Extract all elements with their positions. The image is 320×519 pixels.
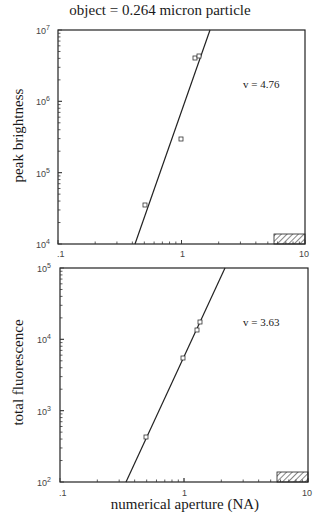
y-tick-label: 102 (37, 476, 51, 488)
x-tick-label: 1 (180, 249, 185, 259)
y-tick-label: 106 (36, 95, 50, 107)
plot-total-fluorescence: 105 104 103 102 .1 1 10 v = 3.63 (37, 262, 312, 498)
data-point (198, 320, 202, 324)
y-tick-label: 103 (37, 405, 51, 417)
y-tick-label: 104 (37, 333, 51, 345)
x-tick-label: .1 (57, 249, 65, 259)
data-point (144, 435, 148, 439)
hatched-region (277, 472, 308, 482)
data-point (179, 137, 183, 141)
plot-frame (60, 268, 308, 482)
fit-line (126, 268, 225, 482)
chart-canvas: 107 106 105 104 .1 1 10 v = 4.76 105 104… (0, 0, 320, 519)
y-tick-label: 104 (36, 238, 50, 250)
axis-ticks (60, 268, 308, 482)
hatched-region (274, 234, 305, 244)
data-point (181, 356, 185, 360)
plot-peak-brightness: 107 106 105 104 .1 1 10 v = 4.76 (36, 24, 309, 259)
data-point (193, 56, 197, 60)
y-tick-label: 107 (36, 24, 50, 36)
data-point (143, 203, 147, 207)
data-point (197, 54, 201, 58)
y-tick-label: 105 (37, 262, 51, 274)
y-axis-label-total-fluorescence: total fluorescence (10, 308, 27, 438)
exponent-annotation: v = 4.76 (243, 78, 280, 90)
fit-line (135, 30, 210, 244)
y-tick-label: 105 (36, 167, 50, 179)
y-axis-label-peak-brightness: peak brightness (10, 81, 27, 191)
exponent-annotation: v = 3.63 (243, 316, 280, 328)
data-point (195, 328, 199, 332)
x-axis-label: numerical aperture (NA) (0, 496, 320, 513)
x-tick-label: 10 (299, 249, 309, 259)
